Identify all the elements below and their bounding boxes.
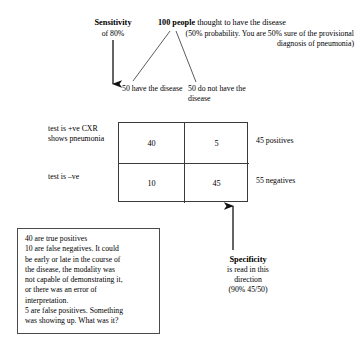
note-line: 40 are true positives — [25, 234, 153, 244]
diagram-canvas: Sensitivity of 80% 100 people thought to… — [0, 0, 361, 356]
specificity-value: (90% 45/50) — [186, 285, 310, 295]
population-description: thought to have the disease — [195, 18, 286, 27]
sensitivity-value: of 80% — [72, 29, 154, 39]
note-line: 10 are false negatives. It could — [25, 244, 153, 254]
branch-label-diseased: 50 have the disease — [122, 84, 192, 94]
note-line: or there was an error of — [25, 285, 153, 295]
note-line: be early or late in the course of — [25, 255, 153, 265]
note-line: 5 are false positives. Something — [25, 306, 153, 316]
cell-false-negatives: 10 — [119, 163, 184, 203]
contingency-table: 40 5 10 45 — [118, 122, 248, 202]
population-heading: 100 people thought to have the disease — [158, 18, 358, 29]
specificity-title: Specificity — [186, 254, 310, 265]
population-count: 100 people — [158, 18, 195, 27]
specificity-annotation: Specificity is read in this direction (9… — [186, 254, 310, 296]
row-total-positives: 45 positives — [256, 136, 346, 145]
cell-true-negatives: 45 — [184, 163, 249, 203]
row-label-test-negative: test is –ve — [48, 172, 114, 182]
specificity-line-1: is read in this — [186, 265, 310, 275]
note-line: the disease, the modality was — [25, 265, 153, 275]
sensitivity-title: Sensitivity — [72, 18, 154, 29]
specificity-line-2: direction — [186, 275, 310, 285]
interpretation-note-box: 40 are true positives 10 are false negat… — [17, 228, 160, 334]
note-line: interpretation. — [25, 296, 153, 306]
branch-label-not-diseased: 50 do not have the disease — [188, 84, 270, 104]
row-total-negatives: 55 negatives — [256, 176, 346, 185]
cell-true-positives: 40 — [119, 123, 184, 163]
row-label-test-positive: test is +ve CXR shows pneumonia — [48, 124, 114, 144]
note-line: not capable of demonstrating it, — [25, 275, 153, 285]
pretest-probability-note: (50% probability. You are 50% sure of th… — [178, 29, 354, 50]
cell-false-positives: 5 — [184, 123, 249, 163]
note-line: was showing up. What was it? — [25, 316, 153, 326]
